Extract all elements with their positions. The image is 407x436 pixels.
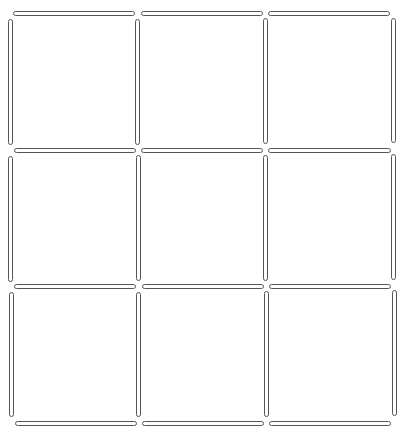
matchstick-vertical-c2-r0[interactable] [263, 18, 268, 144]
matchstick-horizontal-r1-c1[interactable] [141, 148, 263, 153]
matchstick-vertical-c1-r2[interactable] [136, 292, 141, 417]
matchstick-horizontal-r3-c0[interactable] [15, 421, 137, 426]
matchstick-horizontal-r2-c0[interactable] [14, 284, 136, 289]
matchstick-vertical-c0-r1[interactable] [8, 156, 13, 282]
matchstick-horizontal-r2-c2[interactable] [269, 284, 391, 289]
matchstick-horizontal-r3-c2[interactable] [269, 421, 391, 426]
matchstick-vertical-c0-r0[interactable] [8, 19, 13, 145]
matchstick-horizontal-r0-c1[interactable] [141, 11, 263, 16]
matchstick-vertical-c0-r2[interactable] [9, 292, 14, 417]
matchstick-vertical-c1-r0[interactable] [135, 19, 140, 145]
matchstick-vertical-c3-r0[interactable] [391, 18, 396, 143]
matchstick-vertical-c3-r2[interactable] [392, 290, 397, 416]
matchstick-horizontal-r0-c0[interactable] [13, 11, 135, 16]
matchstick-horizontal-r0-c2[interactable] [268, 11, 390, 16]
matchstick-horizontal-r2-c1[interactable] [142, 284, 264, 289]
matchstick-vertical-c1-r1[interactable] [136, 155, 141, 281]
matchstick-horizontal-r1-c2[interactable] [268, 148, 391, 153]
matchstick-vertical-c3-r1[interactable] [391, 154, 396, 280]
matchstick-horizontal-r3-c1[interactable] [142, 421, 264, 426]
matchstick-vertical-c2-r2[interactable] [264, 291, 269, 417]
matchstick-vertical-c2-r1[interactable] [263, 155, 268, 281]
matchstick-horizontal-r1-c0[interactable] [14, 148, 136, 153]
